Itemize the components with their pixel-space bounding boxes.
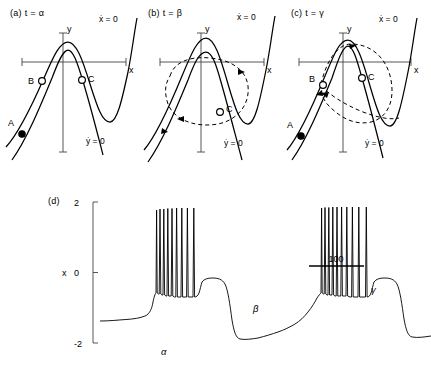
panel-c-homoclinic-tail [321, 86, 399, 119]
panel-b-y-axis [197, 33, 205, 152]
panel-b: (b) t = β x y ẋ = 0 ẏ = 0 [140, 0, 288, 180]
panel-c-xlabel: x [414, 65, 419, 75]
panel-c-point-B: B [309, 74, 326, 88]
panel-d-annotation-gamma: γ [371, 284, 377, 295]
panel-d-annotation-beta: β [252, 303, 259, 314]
panel-d-annotation-alpha: α [161, 346, 167, 357]
panel-a-point-B-label: B [28, 76, 34, 86]
panel-b-plot: x y ẋ = 0 ẏ = 0 C [140, 0, 288, 180]
panel-a-xlabel: x [129, 65, 134, 75]
panel-a-x-axis [22, 58, 126, 66]
panel-c-x-nullcline [287, 18, 417, 150]
panel-a-point-B: B [28, 76, 45, 86]
panel-c-point-A-label: A [287, 120, 293, 130]
panel-c-point-A: A [287, 120, 304, 139]
panel-d-ytick-2: 2 [74, 198, 79, 208]
panel-d-ytick-0: 0 [74, 268, 79, 278]
panel-b-point-C-label: C [226, 104, 233, 114]
panel-b-point-C: C [217, 104, 233, 115]
panel-a-label: (a) t = α [10, 8, 44, 18]
panel-b-y-nullcline-label: ẏ = 0 [224, 138, 243, 148]
panel-c-flow-arrows [316, 44, 357, 98]
panel-c-homoclinic-orbit [321, 44, 392, 123]
panel-d-scalebar-label: 100 [328, 254, 343, 264]
panel-d-ytick-neg2: -2 [74, 339, 82, 349]
panel-c-ylabel: y [347, 24, 352, 34]
panel-d-trace [100, 207, 431, 339]
panel-b-x-axis [160, 58, 264, 66]
panel-d-plot: 2 0 -2 x α β γ 100 [0, 180, 431, 371]
panel-a-point-A: A [8, 118, 25, 137]
panel-c-x-axis [299, 58, 411, 66]
panel-b-x-nullcline-label: ẋ = 0 [237, 12, 256, 22]
panel-c-plot: x y ẋ = 0 ẏ = 0 A B [283, 0, 431, 180]
panel-b-ylabel: y [205, 24, 210, 34]
panel-d-ylabel: x [62, 268, 67, 278]
panel-a-x-nullcline [6, 18, 137, 147]
panel-c-x-nullcline-label: ẋ = 0 [379, 14, 398, 24]
panel-d-y-axis [93, 202, 98, 343]
panel-a-ylabel: y [67, 24, 72, 34]
panel-a-plot: x y ẋ = 0 ẏ = 0 A B C [0, 0, 145, 180]
panel-a-point-A-label: A [8, 118, 14, 128]
panel-c-label: (c) t = γ [291, 8, 324, 18]
panel-c-point-C-label: C [368, 72, 375, 82]
panel-a: (a) t = α x y ẋ = 0 ẏ = 0 [0, 0, 145, 180]
panel-a-y-nullcline-label: ẏ = 0 [86, 136, 105, 146]
panel-a-point-C-label: C [88, 74, 95, 84]
panel-c-y-nullcline-label: ẏ = 0 [365, 138, 384, 148]
panel-b-xlabel: x [267, 65, 272, 75]
panel-c: (c) t = γ x y ẋ = 0 ẏ = 0 [283, 0, 431, 180]
panel-b-limit-cycle [166, 58, 249, 125]
figure-root: (a) t = α x y ẋ = 0 ẏ = 0 [0, 0, 431, 371]
panel-c-point-B-label: B [309, 74, 315, 84]
panel-b-label: (b) t = β [148, 8, 182, 18]
panel-a-x-nullcline-label: ẋ = 0 [99, 14, 118, 24]
